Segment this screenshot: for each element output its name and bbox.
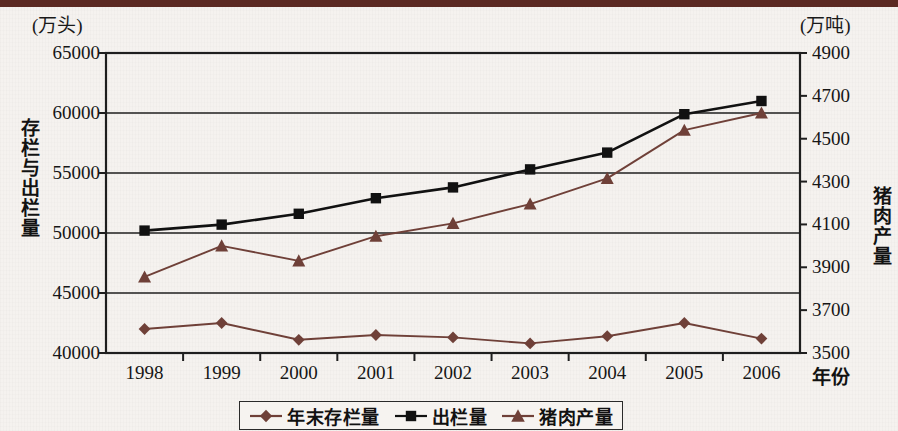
data-marker-square (679, 109, 689, 119)
data-marker-diamond (139, 323, 151, 335)
x-axis-tick-label: 1999 (182, 362, 262, 384)
data-marker-diamond (370, 329, 382, 341)
series-triangle (138, 107, 768, 283)
legend-label: 年末存栏量 (287, 403, 380, 429)
series-line (145, 101, 762, 231)
plot-frame (106, 53, 800, 353)
data-marker-square (525, 164, 535, 174)
x-axis-tick-label: 2006 (721, 362, 801, 384)
x-axis-title: 年份 (812, 362, 850, 389)
x-axis-tick-label: 2004 (567, 362, 647, 384)
data-marker-square (448, 182, 458, 192)
data-marker-triangle (138, 270, 151, 282)
data-marker-square (294, 209, 304, 219)
data-marker-triangle (524, 198, 537, 210)
data-marker-diamond (524, 338, 536, 350)
x-axis-tick-label: 2001 (336, 362, 416, 384)
data-marker-diamond (260, 409, 272, 421)
x-axis-tick-label: 1998 (105, 362, 185, 384)
data-marker-diamond (756, 333, 768, 345)
data-marker-diamond (678, 317, 690, 329)
series-square (139, 96, 766, 236)
legend-diamond-icon (249, 407, 283, 425)
data-marker-square (139, 225, 149, 235)
x-axis-tick-label: 2003 (490, 362, 570, 384)
data-marker-square (602, 147, 612, 157)
x-axis-tick-label: 2002 (413, 362, 493, 384)
plot-area: 199819992000200120022003200420052006 (0, 0, 898, 431)
legend-item: 猪肉产量 (501, 403, 613, 429)
series-diamond (139, 317, 768, 349)
data-marker-square (216, 219, 226, 229)
data-marker-diamond (216, 317, 228, 329)
chart-legend: 年末存栏量出栏量猪肉产量 (239, 401, 623, 430)
legend-label: 出栏量 (432, 403, 488, 429)
data-marker-square (756, 96, 766, 106)
data-marker-square (371, 193, 381, 203)
x-axis-tick-label: 2005 (644, 362, 724, 384)
legend-label: 猪肉产量 (539, 403, 613, 429)
legend-triangle-icon (501, 407, 535, 425)
x-axis-tick-label: 2000 (259, 362, 339, 384)
data-marker-square (405, 410, 415, 420)
data-marker-triangle (215, 239, 228, 251)
data-marker-diamond (601, 330, 613, 342)
legend-item: 年末存栏量 (249, 403, 380, 429)
data-marker-diamond (293, 334, 305, 346)
legend-square-icon (394, 407, 428, 425)
legend-item: 出栏量 (394, 403, 488, 429)
series-line (145, 113, 762, 277)
data-marker-diamond (447, 332, 459, 344)
